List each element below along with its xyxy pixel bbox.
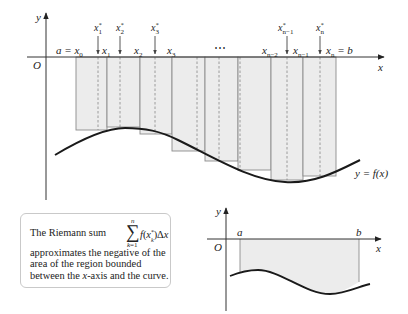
y-axis-label: y: [35, 11, 41, 23]
note-line-2: approximates the negative of the: [30, 247, 170, 258]
sum-lower-limit: k=1: [127, 240, 138, 251]
sample-label-1: x*1: [93, 22, 102, 36]
note-lead: The Riemann sum: [30, 227, 106, 238]
rectangle-5: [205, 57, 238, 161]
riemann-rectangles: [76, 57, 336, 180]
sample-label-3: x*3: [150, 22, 159, 36]
sum-expression: f(x*k)Δx: [140, 227, 168, 246]
riemann-note-box: The Riemann sum n ∑ k=1 f(x*k)Δx approxi…: [20, 213, 171, 288]
rectangle-6: [238, 57, 271, 170]
small-origin-label: O: [214, 241, 222, 253]
main-plot: y x O a = x0 x1 x2 x3 ⋯ xn−2 xn−1 xn = b: [27, 11, 388, 200]
small-y-label: y: [215, 205, 221, 217]
rectangle-3: [140, 57, 172, 134]
note-line-4: between the x-axis and the curve.: [30, 270, 170, 281]
sample-arrows: [98, 36, 320, 54]
rectangle-1: [76, 57, 107, 130]
note-line-3: area of the region bounded: [30, 258, 170, 269]
sigma-symbol: ∑: [126, 222, 140, 241]
sample-label-2: x*2: [115, 22, 124, 36]
curve-label: y = f(x): [354, 167, 388, 180]
small-plot: y x O a b: [207, 205, 381, 311]
b-label: b: [356, 226, 362, 238]
sample-label-n: x*n: [315, 22, 324, 36]
a-label: a: [237, 226, 243, 238]
x-axis-label: x: [377, 61, 383, 73]
rectangle-4: [172, 57, 205, 151]
rectangle-8: [303, 57, 336, 176]
ellipsis: ⋯: [214, 41, 226, 55]
origin-label: O: [33, 59, 41, 71]
small-x-label: x: [375, 242, 381, 254]
sample-label-n-1: x*n−1: [277, 22, 294, 36]
rectangle-2: [107, 57, 140, 127]
